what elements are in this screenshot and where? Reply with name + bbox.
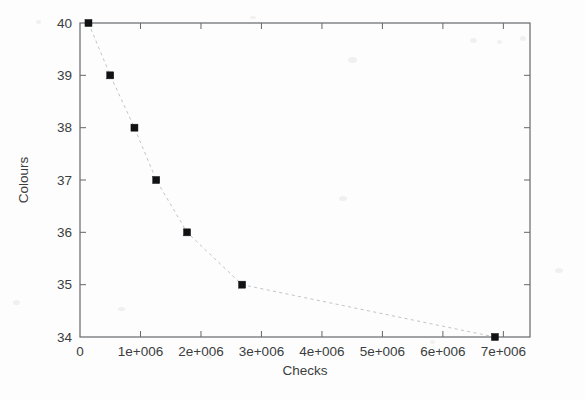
x-axis-tick-labels: 01e+0062e+0063e+0064e+0065e+0066e+0067e+…	[76, 344, 526, 359]
data-point-marker	[239, 281, 246, 288]
y-tick-label: 37	[57, 173, 72, 188]
data-point-marker	[491, 334, 498, 341]
x-tick-label: 7e+006	[481, 344, 526, 359]
x-tick-label: 4e+006	[299, 344, 344, 359]
x-tick-label: 3e+006	[239, 344, 284, 359]
data-point-marker	[153, 177, 160, 184]
x-tick-label: 5e+006	[360, 344, 405, 359]
y-tick-label: 34	[57, 330, 73, 345]
y-tick-label: 38	[57, 120, 72, 135]
data-point-marker	[131, 124, 138, 131]
chart-container: 01e+0062e+0063e+0064e+0065e+0066e+0067e+…	[0, 0, 585, 400]
data-point-marker	[184, 229, 191, 236]
y-axis-title: Colours	[16, 156, 31, 203]
x-tick-label: 6e+006	[420, 344, 465, 359]
x-tick-label: 1e+006	[118, 344, 163, 359]
x-tick-label: 2e+006	[178, 344, 223, 359]
x-axis-title: Checks	[282, 363, 327, 378]
y-tick-label: 35	[57, 277, 72, 292]
y-tick-label: 36	[57, 225, 72, 240]
scatter-plot-svg: 01e+0062e+0063e+0064e+0065e+0066e+0067e+…	[0, 0, 585, 400]
y-tick-label: 40	[57, 16, 72, 31]
x-tick-label: 0	[76, 344, 84, 359]
data-point-marker	[107, 72, 114, 79]
y-tick-label: 39	[57, 68, 72, 83]
data-point-marker	[85, 20, 92, 27]
